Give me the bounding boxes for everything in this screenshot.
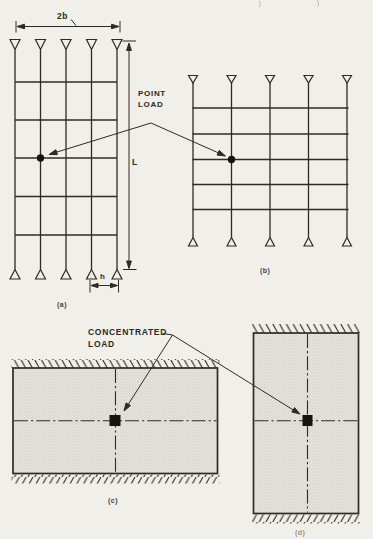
leader-line <box>151 123 219 153</box>
support-triangle-icon <box>266 76 275 84</box>
plate-hatch-top <box>252 324 360 333</box>
panel-b-grillage <box>189 76 352 247</box>
point-load-label-line1: POINT <box>138 88 166 99</box>
support-triangle-icon <box>87 40 97 50</box>
support-triangle-icon <box>10 270 20 280</box>
support-triangle-icon <box>36 40 46 50</box>
support-triangle-icon <box>189 76 198 84</box>
concentrated-load-square <box>303 415 313 426</box>
point-load-dot <box>37 154 44 161</box>
support-triangle-icon <box>112 40 122 50</box>
dim-L-label: L <box>132 157 138 168</box>
support-triangle-icon <box>304 76 313 84</box>
plate-hatch-top <box>12 359 220 368</box>
panel-b-longitudinal-beams <box>193 83 347 238</box>
dim-2b-label: 2b <box>57 11 68 22</box>
plate-hatch-bottom <box>12 475 220 484</box>
leader-arrow-icon <box>217 150 225 156</box>
dimension-2b <box>16 20 120 33</box>
panel-a-grillage <box>10 40 122 280</box>
panel-a-top-supports <box>10 40 122 50</box>
support-triangle-icon <box>87 270 97 280</box>
panel-c-plate <box>12 359 220 484</box>
concentrated-load-label: CONCENTRATED LOAD <box>88 327 167 350</box>
concentrated-load-label-line1: CONCENTRATED <box>88 327 167 339</box>
dim-h-label: h <box>100 271 105 282</box>
support-triangle-icon <box>10 40 20 50</box>
caption-c: (c) <box>108 495 118 506</box>
figure-page: 2b POINT LOAD L h (a) (b) CONCENTRATED L… <box>0 0 373 539</box>
panel-d-plate <box>252 324 360 524</box>
panel-b-top-supports <box>189 76 352 84</box>
support-triangle-icon <box>36 270 46 280</box>
dim-label-leader <box>71 20 76 26</box>
panel-b-bottom-supports <box>189 238 352 247</box>
page-crop-artifact <box>259 0 319 7</box>
support-triangle-icon <box>343 238 352 247</box>
dim-arrow-icon <box>91 283 98 287</box>
point-load-dot <box>228 156 235 163</box>
dim-arrow-icon <box>127 261 132 269</box>
dim-arrow-icon <box>127 43 132 51</box>
concentrated-load-square <box>110 415 121 426</box>
caption-d: (d) <box>295 527 305 538</box>
support-triangle-icon <box>266 238 275 247</box>
dim-arrow-icon <box>112 24 120 29</box>
figure-linework <box>0 0 373 539</box>
leader-line <box>56 123 152 153</box>
dim-arrow-icon <box>111 283 118 287</box>
caption-b: (b) <box>260 265 270 276</box>
leader-arrow-icon <box>49 150 57 155</box>
support-triangle-icon <box>61 40 71 50</box>
point-load-label-line2: LOAD <box>138 99 166 110</box>
dim-arrow-icon <box>17 24 25 29</box>
support-triangle-icon <box>227 76 236 84</box>
support-triangle-icon <box>343 76 352 84</box>
caption-a: (a) <box>57 299 67 310</box>
support-triangle-icon <box>227 238 236 247</box>
plate-hatch-bottom <box>252 515 360 524</box>
support-triangle-icon <box>189 238 198 247</box>
concentrated-load-label-line2: LOAD <box>88 339 167 351</box>
point-load-label: POINT LOAD <box>138 88 166 110</box>
dimension-L <box>123 41 137 270</box>
support-triangle-icon <box>112 270 122 280</box>
support-triangle-icon <box>61 270 71 280</box>
support-triangle-icon <box>304 238 313 247</box>
point-load-leaders <box>49 123 226 156</box>
